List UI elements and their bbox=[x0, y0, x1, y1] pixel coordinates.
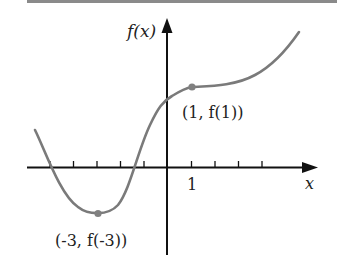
x-axis-ticks bbox=[50, 161, 262, 167]
point-one-label: (1, f(1)) bbox=[182, 103, 243, 122]
minimum-point-label: (-3, f(-3)) bbox=[55, 231, 127, 250]
y-axis-label: f(x) bbox=[125, 21, 156, 41]
x-axis-arrow-icon bbox=[302, 162, 318, 173]
minimum-point bbox=[94, 210, 101, 217]
function-graph: f(x) x 1 (-3, f(-3)) (1, f(1)) bbox=[0, 0, 337, 264]
x-axis-label: x bbox=[305, 174, 314, 193]
y-axis-arrow-icon bbox=[162, 18, 173, 33]
point-at-one bbox=[188, 83, 195, 90]
tick-label-one: 1 bbox=[187, 175, 197, 194]
